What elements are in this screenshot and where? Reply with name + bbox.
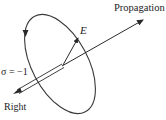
propagation-label: Propagation	[114, 3, 165, 14]
handedness-label: Right	[4, 102, 26, 112]
rotation-arrow-icon	[23, 30, 29, 37]
propagation-axis-arrow	[62, 20, 143, 66]
e-field-label: E	[80, 25, 87, 36]
helicity-label: σ = −1	[1, 67, 28, 77]
